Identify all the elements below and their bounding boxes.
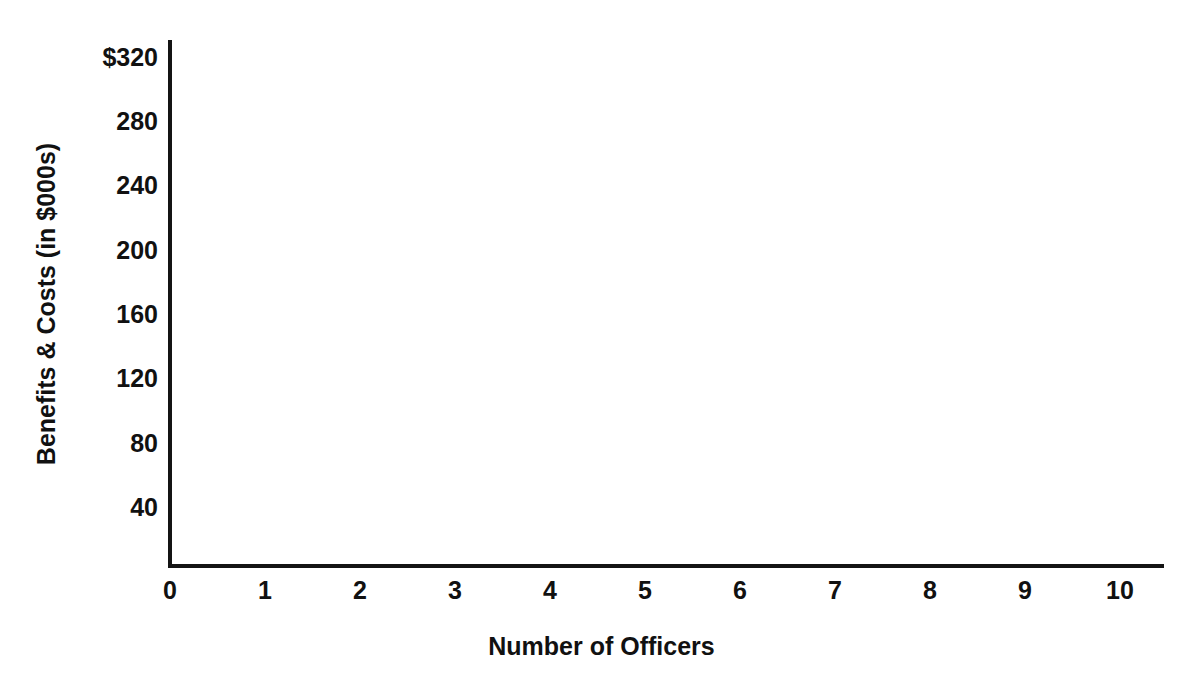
y-tick-label: 200	[116, 236, 158, 265]
chart-figure: Benefits & Costs (in $000s) 40 80 120 16…	[0, 0, 1203, 688]
x-tick-0: 0	[130, 576, 210, 605]
x-tick-2: 2	[320, 576, 400, 605]
x-axis-title: Number of Officers	[0, 632, 1203, 661]
x-axis-line	[168, 564, 1164, 568]
x-tick-7: 7	[795, 576, 875, 605]
x-tick-6: 6	[700, 576, 780, 605]
x-tick-5: 5	[605, 576, 685, 605]
x-tick-10: 10	[1080, 576, 1160, 605]
x-tick-3: 3	[415, 576, 495, 605]
y-tick-label: 280	[116, 107, 158, 136]
y-tick-label: 120	[116, 364, 158, 393]
y-tick-label: 80	[130, 429, 158, 458]
x-tick-8: 8	[890, 576, 970, 605]
y-tick-label: 40	[130, 493, 158, 522]
y-tick-label: 160	[116, 300, 158, 329]
x-tick-4: 4	[510, 576, 590, 605]
x-tick-9: 9	[985, 576, 1065, 605]
y-axis-title-text: Benefits & Costs (in $000s)	[32, 143, 61, 465]
x-tick-1: 1	[225, 576, 305, 605]
y-tick-label: 240	[116, 171, 158, 200]
plot-area	[172, 40, 1164, 564]
y-tick-label: $320	[102, 43, 158, 72]
